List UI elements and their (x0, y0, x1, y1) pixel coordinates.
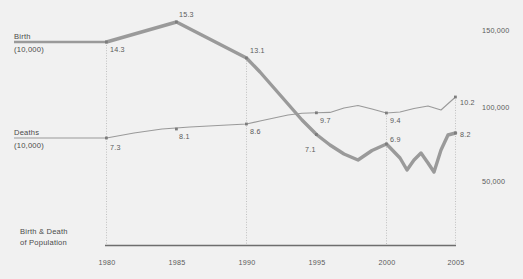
data-label-birth-1990: 13.1 (250, 47, 265, 54)
series-line-birth (107, 22, 456, 172)
y-axis-tick-50000: 50,000 (482, 178, 505, 185)
chart-container: Birth (10,000) Deaths (10,000) Birth & D… (0, 0, 523, 279)
legend-unit-deaths: (10,000) (14, 142, 44, 150)
legend-label-birth: Birth (14, 33, 31, 41)
data-label-birth-1985: 15.3 (179, 11, 194, 18)
data-label-deaths-2000: 9.4 (390, 117, 401, 124)
point-marker-birth-1980 (105, 41, 108, 44)
data-label-deaths-2005: 10.2 (460, 99, 475, 106)
data-label-deaths-1990: 8.6 (250, 128, 261, 135)
data-label-birth-1995: 7.1 (305, 146, 316, 153)
chart-title-line2: of Population (20, 237, 67, 248)
x-axis-tick-2005: 2005 (441, 259, 471, 266)
y-axis-tick-150000: 150,000 (482, 27, 509, 34)
legend-unit-birth: (10,000) (14, 46, 44, 54)
point-marker-birth-2005 (454, 132, 457, 135)
point-marker-birth-1985 (175, 21, 178, 24)
point-marker-birth-1995 (315, 133, 318, 136)
x-axis-tick-1995: 1995 (302, 259, 332, 266)
point-marker-birth-2000 (385, 143, 388, 146)
point-marker-deaths-1990 (245, 123, 248, 126)
chart-plot-area (0, 0, 523, 279)
x-axis-tick-1980: 1980 (92, 259, 122, 266)
data-label-deaths-1985: 8.1 (179, 133, 190, 140)
point-marker-deaths-1980 (105, 137, 108, 140)
x-axis-tick-2000: 2000 (372, 259, 402, 266)
point-marker-birth-1990 (245, 57, 248, 60)
data-label-birth-1980: 14.3 (110, 46, 125, 53)
point-marker-deaths-1985 (175, 128, 178, 131)
data-label-deaths-1980: 7.3 (110, 144, 121, 151)
y-axis-tick-100000: 100,000 (482, 104, 509, 111)
legend-label-deaths: Deaths (14, 129, 39, 137)
data-label-birth-2000: 6.9 (390, 136, 401, 143)
chart-title-line1: Birth & Death (20, 226, 68, 237)
data-label-birth-2005: 8.2 (460, 131, 471, 138)
x-axis-tick-1990: 1990 (232, 259, 262, 266)
series-line-deaths (107, 97, 456, 138)
point-marker-deaths-2000 (385, 112, 388, 115)
point-marker-deaths-2005 (454, 96, 457, 99)
x-axis-tick-1985: 1985 (162, 259, 192, 266)
data-label-deaths-1995: 9.7 (320, 117, 331, 124)
point-marker-deaths-1995 (315, 111, 318, 114)
